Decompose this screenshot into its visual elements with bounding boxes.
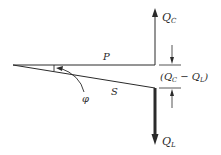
ql-label: QL [162,135,176,149]
p-label: P [102,51,110,62]
s-line [13,65,155,88]
power-triangle-diagram: QC QL P S φ (QC − QL) [0,0,221,155]
phi-label: φ [82,93,89,104]
qc-minus-ql-label: (QC − QL) [160,71,208,84]
s-label: S [111,86,118,97]
phi-pointer-arrowhead-icon [56,66,63,71]
ql-arrowhead-icon [152,134,159,145]
qc-label: QC [162,11,177,25]
qc-arrowhead-icon [152,8,158,17]
bracket-up-arrowhead-icon [170,89,174,96]
bracket-down-arrowhead-icon [170,57,174,64]
phi-pointer [60,68,84,92]
